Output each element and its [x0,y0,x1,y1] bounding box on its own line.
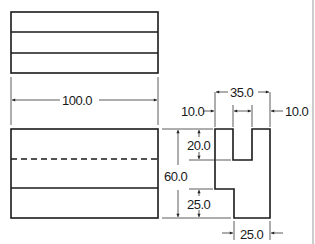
front-view [11,129,158,218]
left-wall-label: 10.0 [181,104,205,119]
side-view [215,129,270,218]
height-label: 60.0 [164,169,188,184]
step-height-label: 25.0 [187,197,211,212]
technical-drawing: 100.0 60.0 20.0 25.0 [0,0,315,244]
width-label: 35.0 [230,85,254,100]
top-view [11,12,158,73]
length-label: 100.0 [62,93,92,108]
slot-depth-label: 20.0 [187,138,211,153]
right-wall-label: 10.0 [285,104,309,119]
base-width-label: 25.0 [240,227,264,242]
